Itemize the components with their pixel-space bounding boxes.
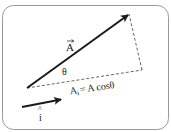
diagram-frame	[3, 6, 169, 130]
unit-vector-i: i	[39, 112, 42, 123]
vector-projection-diagram: A θ Ai= A cosθ ^ i	[0, 0, 171, 132]
unit-vector-label: ^ i	[38, 105, 42, 123]
vector-a-letter: A	[66, 41, 74, 53]
angle-theta-label: θ	[62, 66, 67, 77]
vector-a-label: A	[66, 40, 74, 53]
